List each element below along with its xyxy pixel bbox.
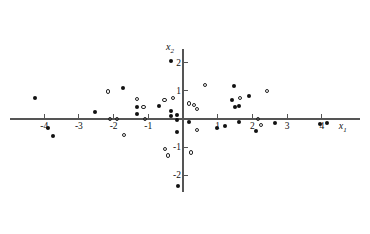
y-axis-line [182,49,184,193]
data-point-open [141,105,146,110]
data-point-filled [93,110,97,114]
data-point-open [163,147,168,152]
data-point-filled [157,104,161,108]
x-tick-label: 3 [285,121,290,131]
x-tick-mark [44,114,45,119]
data-point-open [162,98,167,103]
y-tick-label: 1 [176,86,181,96]
data-point-open [135,97,140,102]
x-tick-mark [321,114,322,119]
data-point-open [187,101,192,106]
x-tick-mark [148,114,149,119]
y-tick-mark [183,90,188,91]
data-point-filled [237,120,241,124]
data-point-filled [135,105,139,109]
x-axis-title: x1 [339,120,347,134]
y-tick-label: 2 [176,58,181,68]
data-point-filled [325,121,329,125]
data-point-filled [187,120,191,124]
y-tick-mark [183,147,188,148]
data-point-open [106,89,111,94]
data-point-filled [135,112,139,116]
data-point-filled [223,124,227,128]
data-point-open [256,117,261,122]
data-point-filled [247,94,251,98]
data-point-filled [175,130,179,134]
data-point-open [195,128,200,133]
data-point-filled [121,86,125,90]
x-tick-mark [217,114,218,119]
data-point-open [115,117,120,122]
data-point-open [203,83,208,88]
x-tick-label: -1 [144,121,152,131]
x-tick-mark [113,114,114,119]
data-point-open [195,107,200,112]
data-point-filled [176,184,180,188]
y-axis-title: x2 [166,41,174,55]
data-point-filled [230,98,234,102]
data-point-open [189,150,194,155]
data-point-filled [237,104,241,108]
caption-strip [0,0,370,7]
data-point-filled [51,134,55,138]
data-point-filled [169,114,173,118]
y-tick-mark [183,62,188,63]
data-point-filled [254,129,258,133]
x-tick-label: -3 [75,121,83,131]
data-point-open [259,123,264,128]
data-point-filled [169,109,173,113]
x-tick-label: -2 [110,121,118,131]
data-point-filled [175,118,179,122]
data-point-filled [232,84,236,88]
x-tick-mark [287,114,288,119]
y-tick-label: -2 [173,170,181,180]
data-point-filled [33,96,37,100]
x-tick-mark [252,114,253,119]
x-tick-mark [78,114,79,119]
x-axis-title-subscript: 1 [343,126,347,134]
data-point-filled [273,121,277,125]
data-point-open [265,89,270,94]
data-point-open [166,153,171,158]
y-tick-mark [183,175,188,176]
data-point-open [171,96,176,101]
data-point-open [122,133,127,138]
data-point-filled [46,126,50,130]
y-tick-label: -1 [173,142,181,152]
y-axis-title-subscript: 2 [170,47,174,55]
data-point-filled [169,59,173,63]
data-point-open [238,96,243,101]
data-point-filled [175,113,179,117]
scatter-plot-figure: -4-3-2-11234 21-1-2 x1 x2 [0,0,370,234]
x-axis-line [10,118,360,120]
